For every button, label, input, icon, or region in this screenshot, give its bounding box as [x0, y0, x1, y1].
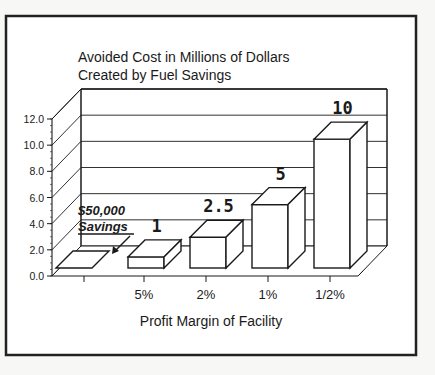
- bar-data-label: 5: [275, 164, 285, 184]
- y-tick-label: 0.0: [29, 270, 44, 282]
- chart-canvas: Avoided Cost in Millions of Dollars Crea…: [0, 0, 435, 375]
- chart-title-line-2: Created by Fuel Savings: [78, 67, 231, 83]
- y-tick-label: 4.0: [29, 218, 44, 230]
- y-tick-label: 2.0: [29, 244, 44, 256]
- annotation-amount: $50,000: [77, 203, 126, 218]
- chart-figure: Avoided Cost in Millions of Dollars Crea…: [0, 0, 435, 375]
- x-axis-label: Profit Margin of Facility: [140, 313, 282, 329]
- bar-data-label: 1: [151, 216, 161, 236]
- bar-front-face: [252, 205, 288, 268]
- y-tick-label: 12.0: [24, 113, 45, 125]
- bar-front-face: [128, 257, 164, 268]
- bar-side-face: [350, 122, 367, 268]
- y-tick-label: 8.0: [29, 165, 44, 177]
- bar-data-label: 2.5: [203, 196, 234, 216]
- x-tick-label: 1%: [259, 287, 278, 302]
- chart-title-line-1: Avoided Cost in Millions of Dollars: [78, 49, 289, 65]
- y-tick-label: 10.0: [24, 139, 45, 151]
- bar-front-face: [190, 237, 226, 268]
- x-tick-label: 1/2%: [315, 287, 345, 302]
- x-tick-label: 2%: [197, 287, 216, 302]
- bar-front-face: [314, 139, 350, 268]
- y-tick-label: 6.0: [29, 192, 44, 204]
- x-tick-label: 5%: [135, 287, 154, 302]
- annotation-label: Savings: [78, 219, 128, 234]
- bar-data-label: 10: [332, 98, 352, 118]
